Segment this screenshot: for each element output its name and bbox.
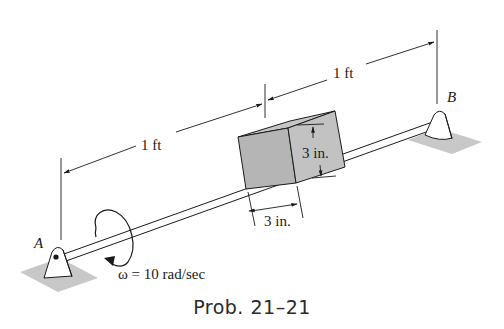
dimension-left (61, 84, 265, 240)
support-b (425, 111, 452, 139)
pin-icon (53, 254, 58, 259)
shaft-block-diagram: 1 ft 1 ft 3 in. 3 in. ω = 10 rad/sec A B (0, 0, 504, 329)
support-a-label: A (33, 235, 44, 251)
angular-velocity-arrow (95, 210, 133, 266)
support-a (44, 247, 72, 278)
dim-left-label: 1 ft (141, 137, 162, 153)
angular-velocity-label: ω = 10 rad/sec (118, 266, 205, 282)
block (238, 111, 345, 189)
figure-caption: Prob. 21–21 (0, 296, 504, 318)
block-front-face (238, 128, 296, 189)
block-height-label: 3 in. (302, 145, 329, 161)
dim-right-label: 1 ft (333, 65, 354, 81)
block-width-label: 3 in. (264, 213, 291, 229)
support-b-label: B (447, 89, 456, 105)
